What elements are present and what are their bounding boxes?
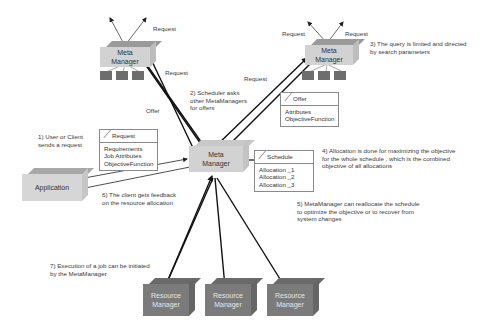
offer-card: Offer Attributes ObjectiveFunction <box>280 92 339 127</box>
manager-label: Manager <box>275 300 305 309</box>
schedule-card-title: Schedule <box>255 151 313 164</box>
diagram-canvas: MetaManager MetaManager MetaManager Appl… <box>0 0 481 334</box>
sub-resource-icon <box>334 71 346 80</box>
meta-label: Meta <box>111 48 139 57</box>
manager-label: Manager <box>202 159 230 168</box>
edge-label-request: Request <box>165 69 188 77</box>
meta-manager-top-left: MetaManager <box>100 41 156 67</box>
request-item: Requirements <box>104 145 153 153</box>
edge-label-request: Request <box>282 30 305 38</box>
meta-label: Meta <box>315 46 343 55</box>
edge-label-offer: Offer <box>146 107 160 115</box>
step-2-note: 2) Scheduler asksother MetaManagersfor o… <box>190 89 247 112</box>
sub-resource-icon <box>318 71 330 80</box>
meta-label: Meta <box>202 150 230 159</box>
step-7-note: 7) Execution of a job can be initiatedby… <box>50 262 150 277</box>
resource-manager-3: ResourceManager <box>267 278 319 316</box>
resource-label: Resource <box>151 291 181 300</box>
sub-resource-icon <box>132 71 144 80</box>
step-1-note: 1) User or Clientsends a request <box>38 133 83 148</box>
request-card: Request Requirements Job Attributes Obje… <box>99 129 158 171</box>
edge-label-request: Request <box>345 30 368 38</box>
manager-label: Manager <box>151 300 181 309</box>
meta-manager-center: MetaManager <box>189 140 249 172</box>
step-4-note: 4) Allocation is done for maximizing the… <box>322 147 455 170</box>
schedule-card: Schedule Allocation _1 Allocation _2 All… <box>254 150 314 192</box>
edge-label-request: Request <box>153 25 176 33</box>
schedule-item: Allocation _2 <box>259 173 309 181</box>
offer-item: Attributes <box>285 108 334 116</box>
manager-label: Manager <box>111 57 139 66</box>
offer-item: ObjectiveFunction <box>285 115 334 123</box>
step-5-note: 5) MetaManager can reallocate the schedu… <box>297 200 419 223</box>
sub-resource-icon <box>116 71 128 80</box>
step-6-note: 6) The client gets feedbackon the resour… <box>102 191 176 206</box>
manager-label: Manager <box>315 55 343 64</box>
schedule-item: Allocation _1 <box>259 166 309 174</box>
step-3-note: 3) The query is limited and directedby s… <box>370 40 467 55</box>
schedule-item: Allocation _3 <box>259 181 309 189</box>
application-label: Application <box>35 183 69 192</box>
meta-manager-top-right: MetaManager <box>305 39 359 65</box>
resource-label: Resource <box>213 291 243 300</box>
request-item: ObjectiveFunction <box>104 160 153 168</box>
sub-resource-icon <box>100 71 112 80</box>
request-card-title: Request <box>100 130 157 143</box>
edge-label-request: Request <box>244 75 267 83</box>
sub-resource-icon <box>302 71 314 80</box>
request-item: Job Attributes <box>104 152 153 160</box>
resource-manager-1: ResourceManager <box>143 278 195 316</box>
application-node: Application <box>22 168 88 201</box>
offer-card-title: Offer <box>281 93 338 106</box>
resource-manager-2: ResourceManager <box>205 278 257 316</box>
manager-label: Manager <box>213 300 243 309</box>
resource-label: Resource <box>275 291 305 300</box>
